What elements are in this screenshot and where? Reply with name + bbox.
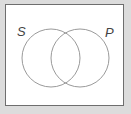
venn-diagram: S P xyxy=(0,0,131,114)
label-p: P xyxy=(105,25,114,40)
label-s: S xyxy=(17,24,26,39)
